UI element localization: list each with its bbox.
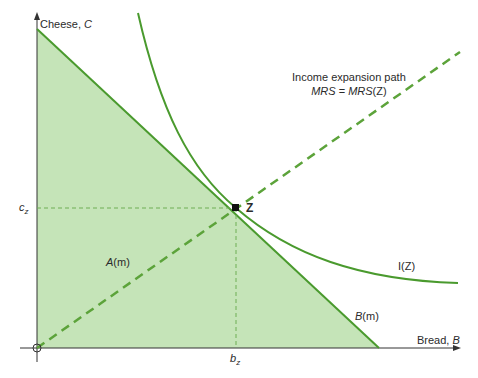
- eq-arg: (Z): [373, 85, 387, 97]
- expansion-path-title: Income expansion path: [292, 70, 406, 84]
- point-z-marker: [232, 204, 239, 211]
- eq-lhs: MRS: [311, 85, 335, 97]
- y-axis-label-text: Cheese,: [40, 18, 84, 30]
- x-axis-variable: B: [452, 334, 459, 346]
- cz-tick-label: cz: [19, 201, 29, 216]
- cz-sub: z: [25, 207, 29, 216]
- y-axis-label: Cheese, C: [40, 18, 92, 30]
- affordable-set-label: A(m): [106, 256, 130, 268]
- expansion-path-label: Income expansion path MRS = MRS(Z): [292, 70, 406, 98]
- bz-tick-label: bz: [230, 352, 240, 367]
- region-label-arg: (m): [113, 256, 130, 268]
- budget-line-label: B(m): [355, 310, 379, 322]
- eq-mid: =: [336, 85, 349, 97]
- bz-sub: z: [236, 358, 240, 367]
- eq-rhs: MRS: [348, 85, 372, 97]
- x-axis-label: Bread, B: [417, 334, 460, 346]
- budget-label-arg: (m): [362, 310, 379, 322]
- x-axis-label-text: Bread,: [417, 334, 452, 346]
- diagram-graphics: [0, 0, 478, 378]
- point-z-label: Z: [246, 201, 253, 215]
- indifference-curve-label: I(Z): [398, 260, 415, 272]
- y-axis-variable: C: [84, 18, 92, 30]
- consumer-choice-diagram: Cheese, C Bread, B cz bz Z A(m) B(m) I(Z…: [0, 0, 478, 378]
- expansion-path-equation: MRS = MRS(Z): [292, 84, 406, 98]
